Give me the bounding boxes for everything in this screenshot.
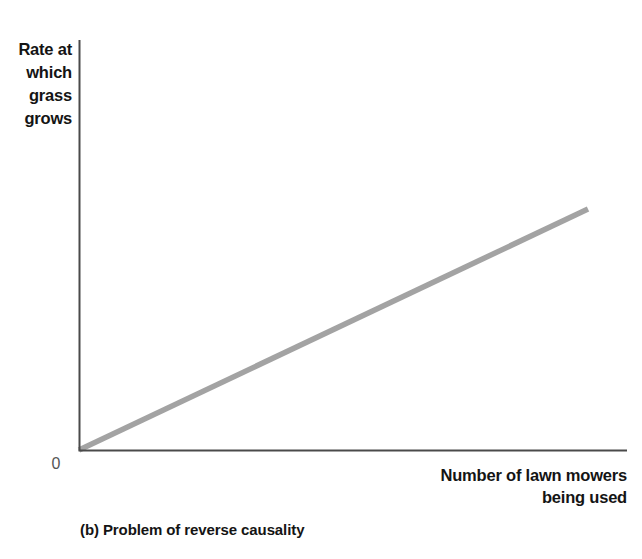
y-axis-label: Rate at which grass grows bbox=[0, 38, 72, 130]
figure-reverse-causality: Rate at which grass grows Number of lawn… bbox=[0, 0, 642, 559]
x-axis-label: Number of lawn mowers being used bbox=[330, 464, 627, 508]
origin-label: 0 bbox=[44, 455, 68, 473]
trend-line bbox=[79, 209, 588, 450]
figure-caption: (b) Problem of reverse causality bbox=[80, 521, 304, 538]
